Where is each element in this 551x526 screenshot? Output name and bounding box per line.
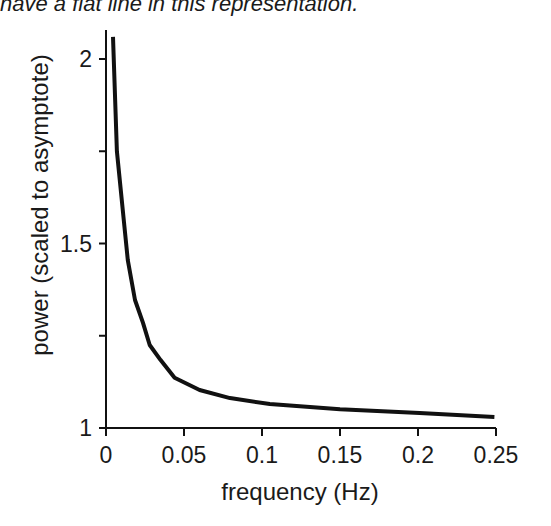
x-tick-label: 0.15 xyxy=(318,442,363,468)
x-axis-label: frequency (Hz) xyxy=(221,478,378,505)
power-spectrum-chart: 11.52 00.050.10.150.20.25 frequency (Hz)… xyxy=(0,0,551,526)
y-tick-label: 1.5 xyxy=(60,231,92,257)
y-axis: 11.52 xyxy=(60,30,106,441)
y-axis-label: power (scaled to asymptote) xyxy=(26,54,53,355)
x-tick-label: 0.2 xyxy=(402,442,434,468)
x-tick-label: 0.25 xyxy=(474,442,519,468)
x-tick-label: 0 xyxy=(100,442,113,468)
x-tick-label: 0.1 xyxy=(246,442,278,468)
series-line xyxy=(113,37,494,417)
x-axis: 00.050.10.150.20.25 xyxy=(99,428,518,468)
x-tick-label: 0.05 xyxy=(162,442,207,468)
data-series xyxy=(113,37,494,417)
y-tick-label: 2 xyxy=(79,46,92,72)
y-tick-label: 1 xyxy=(79,415,92,441)
